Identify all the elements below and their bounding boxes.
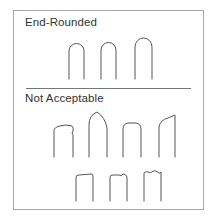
shapes-illustration	[0, 0, 215, 223]
shape-rounded-end-1	[69, 44, 84, 80]
shape-square-rounded-corners	[123, 123, 141, 157]
shape-slanted	[159, 115, 175, 157]
shape-rounded-end-3	[135, 38, 152, 79]
shape-flat-square	[76, 174, 93, 201]
shape-pointed	[89, 112, 107, 157]
shape-notched	[110, 174, 127, 201]
shape-flat-dented	[54, 125, 73, 157]
shape-double-notched	[144, 171, 161, 201]
shape-rounded-end-2	[101, 43, 116, 79]
